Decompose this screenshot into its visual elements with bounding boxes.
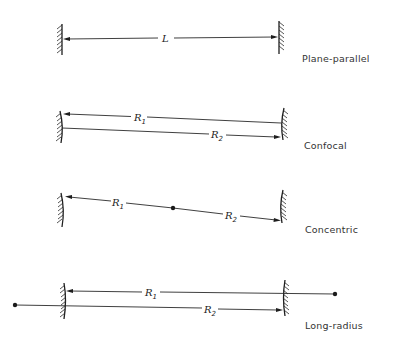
arrowhead-right-icon <box>271 35 278 39</box>
right-center-of-curvature-dot <box>333 292 337 296</box>
right-curved-mirror-icon <box>281 190 287 223</box>
r2-arrowhead-icon <box>274 135 281 139</box>
left-center-of-curvature-dot <box>13 303 17 307</box>
left-flat-mirror-icon <box>57 24 62 55</box>
left-curved-mirror-icon <box>60 283 66 319</box>
r1-line-left <box>70 291 142 292</box>
r1-line-right <box>147 117 281 123</box>
r2-label: R2 <box>210 129 224 143</box>
arrowhead-left-icon <box>63 37 70 41</box>
r2-label: R2 <box>224 210 238 224</box>
resonator-diagram: L Plane-parallel R1 <box>0 0 394 348</box>
r2-line-right <box>218 309 278 310</box>
right-curved-mirror-icon <box>282 108 288 140</box>
r2-line-left <box>173 208 223 214</box>
concentric-label: Concentric <box>305 224 358 235</box>
right-flat-mirror-icon <box>279 21 284 54</box>
confocal-label: Confocal <box>304 140 347 151</box>
r2-line-right <box>240 216 276 220</box>
r1-label: R1 <box>144 287 157 301</box>
r2-label: R2 <box>203 304 217 318</box>
plane-parallel-configuration: L Plane-parallel <box>57 21 370 64</box>
r1-line-left <box>69 197 111 201</box>
left-curved-mirror-icon <box>56 111 62 143</box>
long-radius-configuration: R1 R2 Long-radius <box>13 280 363 331</box>
r1-arrowhead-icon <box>65 195 72 199</box>
r2-arrowhead-icon <box>276 308 283 312</box>
long-radius-label: Long-radius <box>305 320 363 331</box>
r2-line-left <box>62 128 209 134</box>
right-curved-mirror-icon <box>283 280 289 316</box>
length-line-right <box>174 37 275 38</box>
confocal-configuration: R1 R2 Confocal <box>56 108 347 151</box>
r1-line-right <box>160 292 335 294</box>
r2-line-left <box>15 305 202 308</box>
r1-label: R1 <box>133 112 146 126</box>
length-line-left <box>66 38 158 39</box>
r2-arrowhead-icon <box>274 218 282 222</box>
r1-label: R1 <box>111 197 124 211</box>
center-of-curvature-dot <box>171 206 175 210</box>
concentric-configuration: R1 R2 Concentric <box>57 190 358 235</box>
plane-parallel-label: Plane-parallel <box>302 53 370 64</box>
r1-line-left <box>67 114 131 117</box>
r2-line-right <box>226 135 276 137</box>
r1-arrowhead-icon <box>66 289 73 293</box>
length-label: L <box>161 33 169 44</box>
left-curved-mirror-icon <box>57 193 63 227</box>
r1-line-right <box>126 203 173 208</box>
r1-arrowhead-icon <box>63 112 70 116</box>
